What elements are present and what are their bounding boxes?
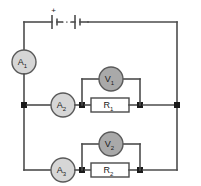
voltmeter-v2[interactable]: V2: [99, 132, 123, 156]
ammeter-a2[interactable]: A2: [51, 93, 75, 117]
junction-left-split: [21, 102, 27, 108]
battery-ellipsis: [62, 21, 72, 23]
voltmeter-v1[interactable]: V1: [99, 67, 123, 91]
ammeter-a1[interactable]: A1: [12, 50, 36, 74]
ammeter-a3[interactable]: A3: [51, 158, 75, 182]
resistor-r1[interactable]: R1: [91, 98, 129, 112]
battery-plus-label: +: [51, 6, 56, 15]
circuit-canvas: + A1 A2 R1: [0, 0, 201, 186]
resistor-r2[interactable]: R2: [91, 163, 129, 177]
circuit-diagram: + A1 A2 R1: [0, 0, 201, 186]
battery: +: [51, 6, 88, 29]
junction-right-branch1: [174, 102, 180, 108]
